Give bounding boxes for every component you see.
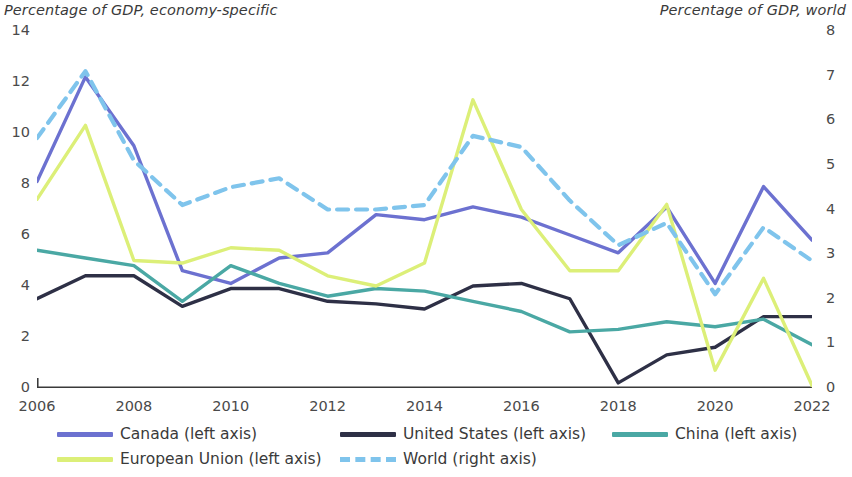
left-axis-tick-2: 2 — [2, 328, 30, 344]
legend-label-china: China (left axis) — [675, 427, 797, 443]
x-axis-tick-2010: 2010 — [203, 398, 259, 414]
left-axis-tick-6: 6 — [2, 226, 30, 242]
chart-legend: Canada (left axis) United States (left a… — [0, 424, 852, 477]
legend-label-world: World (right axis) — [403, 452, 537, 468]
left-axis-tick-0: 0 — [2, 379, 30, 395]
legend-swatch-world — [340, 457, 396, 462]
series-line-european-union-left-axis — [37, 100, 812, 386]
right-axis-tick-7: 7 — [826, 67, 852, 83]
left-axis-tick-14: 14 — [2, 22, 30, 38]
x-axis-tick-2014: 2014 — [397, 398, 453, 414]
right-axis-tick-3: 3 — [826, 245, 852, 261]
legend-swatch-european-union — [57, 457, 113, 462]
right-axis-title: Percentage of GDP, world — [660, 2, 846, 18]
right-axis-tick-1: 1 — [826, 334, 852, 350]
x-axis-tick-2016: 2016 — [493, 398, 549, 414]
right-axis-tick-2: 2 — [826, 290, 852, 306]
legend-label-european-union: European Union (left axis) — [120, 452, 322, 468]
legend-item-european-union[interactable]: European Union (left axis) — [57, 452, 322, 468]
x-axis-tick-2018: 2018 — [590, 398, 646, 414]
legend-swatch-china — [612, 432, 668, 437]
right-axis-tick-8: 8 — [826, 22, 852, 38]
legend-item-united-states[interactable]: United States (left axis) — [340, 427, 586, 443]
line-chart-svg — [37, 31, 812, 388]
left-axis-tick-4: 4 — [2, 277, 30, 293]
right-axis-tick-5: 5 — [826, 156, 852, 172]
left-axis-tick-10: 10 — [2, 124, 30, 140]
right-axis-tick-6: 6 — [826, 111, 852, 127]
x-axis-tick-2012: 2012 — [300, 398, 356, 414]
plot-area — [37, 31, 812, 388]
legend-swatch-united-states — [340, 432, 396, 437]
chart-container: Percentage of GDP, economy-specific Perc… — [0, 0, 852, 477]
x-axis-tick-2020: 2020 — [687, 398, 743, 414]
left-axis-tick-8: 8 — [2, 175, 30, 191]
legend-label-canada: Canada (left axis) — [120, 427, 257, 443]
left-axis-tick-12: 12 — [2, 73, 30, 89]
legend-label-united-states: United States (left axis) — [403, 427, 586, 443]
x-axis-tick-2008: 2008 — [106, 398, 162, 414]
legend-swatch-canada — [57, 432, 113, 437]
legend-item-china[interactable]: China (left axis) — [612, 427, 797, 443]
x-axis-tick-2006: 2006 — [9, 398, 65, 414]
left-axis-title: Percentage of GDP, economy-specific — [4, 2, 278, 18]
legend-item-world[interactable]: World (right axis) — [340, 452, 537, 468]
axis-spine — [38, 378, 812, 387]
legend-item-canada[interactable]: Canada (left axis) — [57, 427, 257, 443]
right-axis-tick-4: 4 — [826, 201, 852, 217]
x-axis-tick-2022: 2022 — [784, 398, 840, 414]
right-axis-tick-0: 0 — [826, 379, 852, 395]
